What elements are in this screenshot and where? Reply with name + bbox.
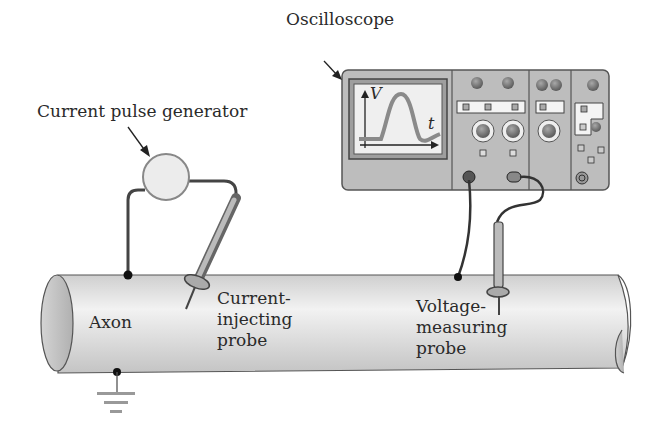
voltage-probe-label: Voltage- measuring probe: [416, 296, 507, 359]
pulse-generator-label: Current pulse generator: [37, 101, 247, 121]
screen-v-label: V: [370, 84, 382, 104]
ground-icon: [97, 368, 135, 413]
current-probe-label: Current- injecting probe: [217, 288, 292, 351]
pulse-generator: [124, 127, 237, 280]
experiment-diagram: [0, 0, 647, 435]
oscilloscope: [324, 61, 609, 190]
screen-t-label: t: [428, 114, 434, 134]
oscilloscope-label: Oscilloscope: [286, 9, 394, 29]
axon-label: Axon: [89, 312, 132, 332]
